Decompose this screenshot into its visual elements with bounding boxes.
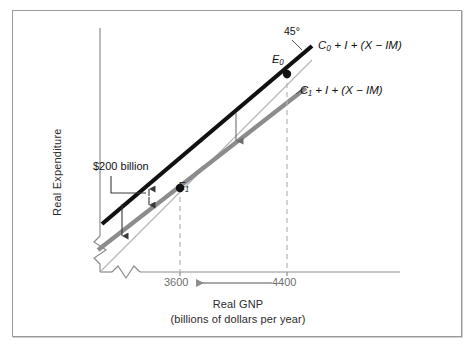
line-label-c0: C₀ + I + (X − IM) — [318, 40, 402, 52]
x-axis — [100, 266, 400, 278]
x-tick-label-3600: 3600 — [164, 277, 188, 288]
equilibrium-label-e0: E₀ — [272, 54, 284, 65]
y-axis-break-mark — [94, 236, 106, 272]
y-axis-title-text: Real Expenditure — [52, 106, 63, 216]
equilibrium-point-e0 — [283, 70, 291, 78]
equilibrium-label-e1: E₁ — [178, 181, 189, 192]
y-axis — [94, 28, 106, 272]
forty-five-degree-label: 45° — [284, 26, 300, 37]
x-tick-label-4400: 4400 — [272, 277, 296, 288]
line-label-c1: C₁ + I + (X − IM) — [300, 85, 383, 97]
expenditure-line-c0 — [102, 46, 312, 224]
x-axis-break-mark — [112, 266, 140, 278]
x-axis-title-line1: Real GNP — [148, 299, 328, 310]
forty-five-leader — [292, 40, 302, 50]
x-axis-title-line2: (billions of dollars per year) — [128, 314, 348, 325]
gap-annotation-label: $200 billion — [93, 161, 149, 172]
figure-container: Real Expenditure Real GNP (billions of d… — [0, 0, 474, 351]
